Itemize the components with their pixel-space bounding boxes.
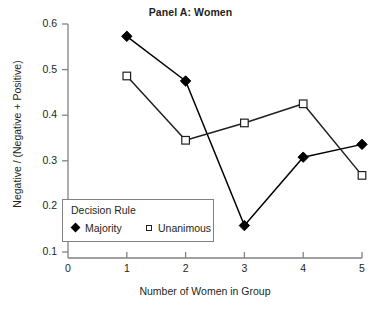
x-tick-label: 2	[174, 262, 198, 274]
y-tick-label: 0.1	[27, 245, 57, 257]
chart-container: Panel A: Women Negative / (Negative + Po…	[0, 0, 381, 309]
x-tick-marks	[68, 252, 362, 258]
series-line-majority	[127, 36, 362, 225]
legend-title: Decision Rule	[71, 204, 136, 216]
data-point-unanimous	[299, 100, 307, 108]
legend: Decision Rule Majority Unanimous	[62, 199, 214, 242]
y-tick-label: 0.3	[27, 154, 57, 166]
legend-item-label: Unanimous	[158, 222, 211, 234]
data-point-majority	[357, 139, 367, 149]
legend-item-majority: Majority	[70, 222, 122, 234]
series-lines	[127, 36, 362, 225]
x-tick-label: 4	[291, 262, 315, 274]
y-tick-label: 0.5	[27, 63, 57, 75]
data-point-unanimous	[182, 136, 190, 144]
x-tick-label: 3	[232, 262, 256, 274]
x-tick-label: 1	[115, 262, 139, 274]
y-tick-label: 0.6	[27, 17, 57, 29]
legend-item-unanimous: Unanimous	[143, 222, 211, 234]
x-tick-label: 0	[56, 262, 80, 274]
data-point-unanimous	[358, 172, 366, 180]
filled-diamond-icon	[70, 222, 82, 234]
legend-item-label: Majority	[85, 222, 122, 234]
data-point-unanimous	[241, 119, 249, 127]
data-point-unanimous	[123, 72, 131, 80]
open-square-icon	[143, 222, 155, 234]
y-tick-label: 0.4	[27, 108, 57, 120]
y-tick-label: 0.2	[27, 199, 57, 211]
x-tick-label: 5	[350, 262, 374, 274]
